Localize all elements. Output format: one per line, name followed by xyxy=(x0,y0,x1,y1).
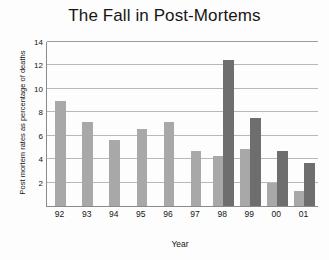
bar-group xyxy=(155,42,182,206)
bar-dark-grey-series-01 xyxy=(304,163,315,206)
bars-layer xyxy=(47,42,318,206)
bar-group xyxy=(291,42,318,206)
y-axis-tick-label: 14 xyxy=(34,38,43,47)
x-axis-label: Year xyxy=(44,239,316,249)
bar-light-grey-series-95 xyxy=(137,129,148,206)
x-axis-tick-label: 01 xyxy=(299,209,308,219)
x-axis-tick-label: 93 xyxy=(82,209,91,219)
bar-group xyxy=(237,42,264,206)
bar-light-grey-series-01 xyxy=(294,191,305,206)
bar-light-grey-series-99 xyxy=(240,149,251,206)
x-axis-tick-label: 95 xyxy=(136,209,145,219)
bar-dark-grey-series-98 xyxy=(223,60,234,206)
bar-light-grey-series-98 xyxy=(213,156,224,206)
bar-light-grey-series-96 xyxy=(164,122,175,206)
x-axis-tick-label: 00 xyxy=(272,209,281,219)
chart-title: The Fall in Post-Mortems xyxy=(0,6,329,26)
bar-group xyxy=(74,42,101,206)
bar-group xyxy=(47,42,74,206)
bar-group xyxy=(128,42,155,206)
x-axis-tick-label: 97 xyxy=(190,209,199,219)
x-axis-tick-label: 92 xyxy=(55,209,64,219)
y-axis-tick-label: 10 xyxy=(34,84,43,93)
y-axis-tick-label: 4 xyxy=(39,155,43,164)
x-axis-tick-label: 96 xyxy=(163,209,172,219)
y-axis-tick-label: 8 xyxy=(39,108,43,117)
bar-dark-grey-series-00 xyxy=(277,151,288,206)
bar-light-grey-series-92 xyxy=(55,101,66,206)
y-axis-label: Post mortem rates as percentage of death… xyxy=(18,33,27,213)
post-mortems-bar-chart: The Fall in Post-Mortems Post mortem rat… xyxy=(0,0,329,260)
x-axis-tick-label: 99 xyxy=(245,209,254,219)
x-axis-tick-label: 94 xyxy=(109,209,118,219)
plot-area: 02468101214 xyxy=(46,42,318,207)
bar-group xyxy=(101,42,128,206)
x-axis-tick-labels: 92939495969798990001 xyxy=(46,209,317,223)
y-axis-tick-label: 6 xyxy=(39,131,43,140)
bar-group xyxy=(264,42,291,206)
bar-dark-grey-series-99 xyxy=(250,118,261,206)
bar-light-grey-series-93 xyxy=(82,122,93,206)
y-axis-tick-label: 2 xyxy=(39,178,43,187)
x-axis-tick-label: 98 xyxy=(217,209,226,219)
y-axis-tick-label: 12 xyxy=(34,61,43,70)
bar-group xyxy=(210,42,237,206)
bar-light-grey-series-97 xyxy=(191,151,202,206)
bar-group xyxy=(183,42,210,206)
bar-light-grey-series-00 xyxy=(267,183,278,206)
bar-light-grey-series-94 xyxy=(109,140,120,206)
